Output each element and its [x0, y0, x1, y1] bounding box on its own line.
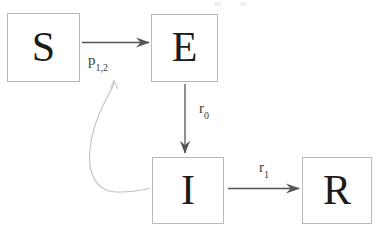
- infectious-compartment-label: I: [181, 169, 195, 211]
- susceptible-compartment: S: [7, 13, 80, 82]
- recovered-compartment-label: R: [323, 169, 351, 211]
- edge-label-r1-subscript: 1: [264, 169, 269, 180]
- edge-i-to-infection-feedback: [90, 81, 150, 192]
- edge-label-p12-base: p: [88, 52, 96, 68]
- edge-label-r1: r1: [259, 158, 269, 178]
- edge-label-p12: p1,2: [88, 51, 108, 71]
- edge-label-p12-subscript: 1,2: [96, 62, 109, 73]
- exposed-compartment-label: E: [172, 26, 198, 68]
- diagram-canvas: S E I R p1,2 r0 r1: [0, 0, 385, 230]
- exposed-compartment: E: [151, 14, 218, 82]
- susceptible-compartment-label: S: [32, 26, 55, 68]
- recovered-compartment: R: [302, 157, 372, 224]
- infectious-compartment: I: [152, 157, 224, 224]
- edge-label-r0: r0: [199, 99, 209, 119]
- edge-label-r0-subscript: 0: [204, 110, 209, 121]
